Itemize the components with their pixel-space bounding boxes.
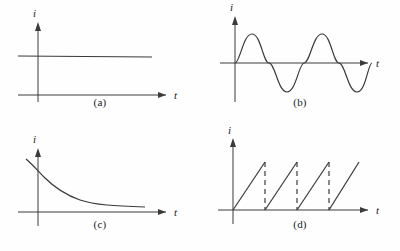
plot-a: i t: [0, 0, 200, 105]
plot-b: i t: [200, 0, 400, 105]
y-axis-arrow-c: [35, 148, 41, 157]
waveform-d-ramp-1: [233, 162, 265, 210]
plot-d: i t: [200, 126, 400, 231]
figure-container: i t (a) i t (b): [0, 0, 400, 251]
caption-b: (b): [200, 96, 400, 108]
caption-c: (c): [0, 218, 200, 230]
plot-c: i t: [0, 126, 200, 231]
waveform-d-ramp-4: [329, 162, 359, 210]
y-axis-label-b: i: [230, 1, 233, 13]
caption-a: (a): [0, 96, 200, 108]
panel-b: i t (b): [200, 0, 400, 125]
waveform-d-ramp-2: [265, 162, 297, 210]
waveform-d-ramp-3: [297, 162, 329, 210]
y-axis-label-d: i: [228, 126, 231, 136]
waveform-c-decay: [26, 159, 145, 207]
x-axis-arrow-c: [158, 209, 166, 215]
caption-d: (d): [200, 218, 400, 230]
x-axis-label-c: t: [174, 206, 178, 218]
x-axis-arrow-d: [360, 207, 368, 213]
panel-a: i t (a): [0, 0, 200, 125]
y-axis-arrow-a: [35, 22, 41, 31]
x-axis-arrow-b: [360, 60, 368, 66]
y-axis-label-a: i: [33, 7, 36, 19]
y-axis-arrow-b: [232, 16, 238, 25]
y-axis-arrow-d: [230, 138, 236, 147]
panel-d: i t (d): [200, 126, 400, 251]
panel-c: i t (c): [0, 126, 200, 251]
y-axis-label-c: i: [33, 133, 36, 145]
x-axis-label-d: t: [376, 204, 380, 216]
x-axis-label-b: t: [376, 57, 380, 69]
